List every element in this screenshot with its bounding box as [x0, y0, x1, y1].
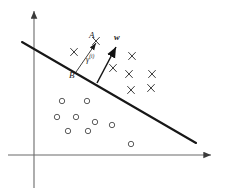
- circle-marker: [109, 122, 114, 127]
- cross-marker: [110, 64, 117, 71]
- circle-marker: [73, 114, 78, 119]
- svm-margin-diagram: A B w γ(i): [0, 0, 226, 196]
- cross-marker: [148, 84, 155, 91]
- weight-vector-line: [97, 47, 116, 83]
- cross-marker: [128, 86, 135, 93]
- circle-marker: [84, 98, 89, 103]
- margin-segment-line: [76, 43, 96, 72]
- cross-marker: [129, 52, 136, 59]
- cross-marker: [149, 70, 156, 77]
- axes-group: [8, 11, 211, 188]
- circle-marker: [59, 98, 64, 103]
- positive-class-markers: [71, 37, 156, 93]
- circle-marker: [65, 128, 70, 133]
- circle-marker: [92, 119, 97, 124]
- diagram-canvas: [0, 0, 226, 196]
- circle-marker: [54, 114, 59, 119]
- cross-marker: [126, 70, 133, 77]
- circle-marker: [85, 128, 90, 133]
- cross-marker: [71, 48, 78, 55]
- decision-boundary-line: [22, 42, 196, 143]
- negative-class-markers: [54, 98, 133, 146]
- circle-marker: [128, 141, 133, 146]
